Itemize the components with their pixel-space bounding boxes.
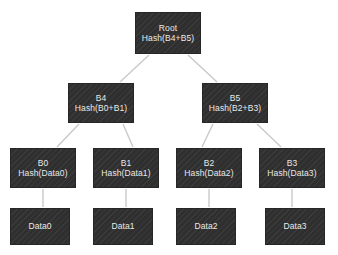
edge-b4-b1 [123,124,133,147]
node-b0[interactable]: B0Hash(Data0) [10,148,76,188]
node-b3[interactable]: B3Hash(Data3) [259,148,325,188]
node-b3-label: B3 [287,158,298,168]
node-b5-label: B5 [230,93,241,103]
merkle-tree-diagram: RootHash(B4+B5)B4Hash(B0+B1)B5Hash(B2+B3… [0,0,338,255]
node-root-label: Root [159,23,177,33]
node-data0[interactable]: Data0 [10,208,70,245]
node-b1-sublabel: Hash(Data1) [101,168,150,178]
node-root-sublabel: Hash(B4+B5) [142,33,194,43]
node-data1[interactable]: Data1 [93,208,153,245]
node-b5-sublabel: Hash(B2+B3) [209,103,261,113]
node-b0-sublabel: Hash(Data0) [18,168,67,178]
edge-b5-b3 [257,124,281,147]
node-root[interactable]: RootHash(B4+B5) [135,12,201,54]
node-data2-label: Data2 [194,221,217,231]
edge-b5-b2 [202,124,213,147]
node-data2[interactable]: Data2 [176,208,236,245]
node-b4[interactable]: B4Hash(B0+B1) [68,83,134,123]
node-data1-label: Data1 [111,221,134,231]
node-b2-sublabel: Hash(Data2) [184,168,233,178]
edge-root-b4 [120,55,149,82]
node-b1-label: B1 [121,158,132,168]
edge-b4-b0 [57,124,79,147]
node-b5[interactable]: B5Hash(B2+B3) [202,83,268,123]
node-b3-sublabel: Hash(Data3) [267,168,316,178]
node-b4-sublabel: Hash(B0+B1) [75,103,127,113]
node-b0-label: B0 [38,158,49,168]
node-b1[interactable]: B1Hash(Data1) [93,148,159,188]
node-data3[interactable]: Data3 [265,208,325,245]
node-b4-label: B4 [96,93,107,103]
node-data0-label: Data0 [28,221,51,231]
node-data3-label: Data3 [283,221,306,231]
node-b2-label: B2 [204,158,215,168]
node-b2[interactable]: B2Hash(Data2) [176,148,242,188]
edge-root-b5 [188,55,217,82]
